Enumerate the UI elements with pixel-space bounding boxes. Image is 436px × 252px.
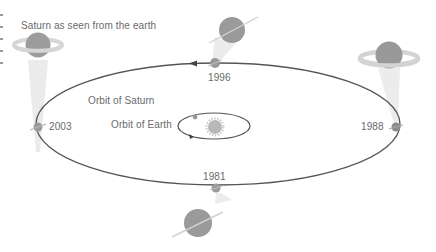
saturn-view-1988 (360, 42, 418, 69)
saturn-marker-2003 (30, 123, 46, 132)
sun-icon (207, 119, 224, 136)
year-label-1988: 1988 (361, 121, 384, 132)
orbit-of-saturn-label: Orbit of Saturn (88, 95, 155, 106)
saturn-view-1981 (172, 209, 223, 237)
diagram-title: Saturn as seen from the earth (21, 20, 156, 31)
year-label-1996: 1996 (208, 72, 231, 83)
orbit-of-earth-label: Orbit of Earth (111, 119, 172, 130)
year-label-1981: 1981 (203, 171, 226, 182)
saturn-marker-1988 (389, 123, 403, 132)
saturn-orbit-arrow (189, 61, 197, 67)
saturn-view-2003 (14, 33, 62, 58)
earth-dot (193, 115, 198, 120)
saturn-orbit-diagram: Saturn as seen from the earth 1996 1988 … (0, 0, 436, 252)
saturn-view-1996 (209, 17, 258, 43)
year-label-2003: 2003 (49, 121, 72, 132)
